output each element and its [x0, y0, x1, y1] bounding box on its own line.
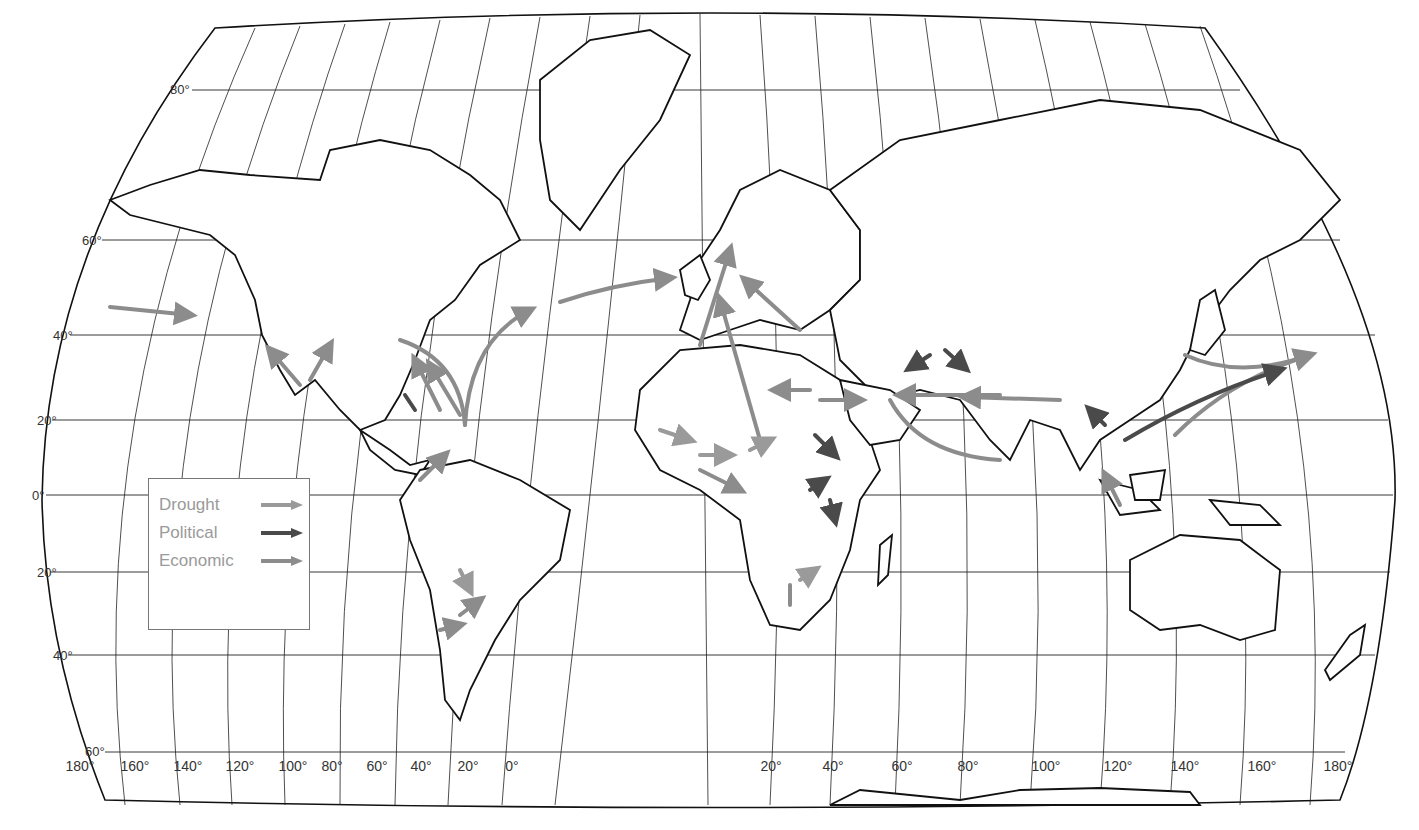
lon-label: 20°	[457, 758, 478, 774]
borneo	[1130, 470, 1165, 500]
south-america	[400, 460, 570, 720]
lon-label: 160°	[121, 758, 150, 774]
lon-label: 120°	[226, 758, 255, 774]
lon-label: 60°	[891, 758, 912, 774]
new-guinea	[1210, 500, 1280, 525]
lon-label: 80°	[321, 758, 342, 774]
economic-arrow-icon	[261, 556, 303, 566]
lat-label-60s: 60°	[85, 744, 105, 759]
arrow-political	[405, 395, 415, 410]
drought-arrow-icon	[261, 500, 303, 510]
lat-label-80n: 80°	[170, 82, 190, 97]
lat-label-20s: 20°	[37, 565, 57, 580]
lon-label: 120°	[1104, 758, 1133, 774]
lon-label: 60°	[366, 758, 387, 774]
map-legend: Drought Political Economic	[148, 478, 310, 630]
lon-label: 180°	[1324, 758, 1353, 774]
central-america	[360, 430, 430, 475]
madagascar	[878, 535, 892, 585]
continents	[110, 30, 1365, 805]
legend-label-economic: Economic	[159, 551, 234, 571]
greenland	[540, 30, 690, 230]
lon-label: 80°	[957, 758, 978, 774]
australia	[1130, 535, 1280, 640]
lat-label-60n: 60°	[82, 233, 102, 248]
lon-label: 40°	[410, 758, 431, 774]
lon-label: 160°	[1248, 758, 1277, 774]
lon-label: 0°	[505, 758, 518, 774]
lon-label: 100°	[1032, 758, 1061, 774]
lon-label: 40°	[822, 758, 843, 774]
arrow-economic	[465, 310, 530, 425]
lon-label: 140°	[1171, 758, 1200, 774]
new-zealand	[1325, 625, 1365, 680]
north-america	[110, 140, 520, 430]
arrow-economic	[560, 278, 670, 302]
lon-label: 140°	[174, 758, 203, 774]
lat-label-40s: 40°	[53, 648, 73, 663]
lat-label-20n: 20°	[37, 413, 57, 428]
lon-label: 100°	[279, 758, 308, 774]
lat-label-40n: 40°	[53, 328, 73, 343]
political-arrow-icon	[261, 528, 303, 538]
legend-label-political: Political	[159, 523, 218, 543]
legend-label-drought: Drought	[159, 495, 219, 515]
lat-label-0: 0°	[32, 488, 44, 503]
arrow-economic	[1185, 355, 1310, 368]
lon-label: 180°	[66, 758, 95, 774]
world-map	[0, 0, 1419, 830]
arrow-economic	[110, 307, 190, 315]
antarctica	[830, 788, 1200, 805]
lon-label: 20°	[760, 758, 781, 774]
